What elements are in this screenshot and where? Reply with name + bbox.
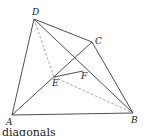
segment-ef [54,71,83,77]
segment-de [34,19,54,77]
vertex-label-b: B [130,115,138,125]
segment-ad [12,19,34,115]
segment-db [34,19,133,113]
quadrilateral-diagram: ABCDEF [0,0,147,136]
segment-eb [54,77,133,113]
vertex-label-e: E [51,78,59,88]
solid-segments [12,19,133,115]
vertex-label-f: F [80,71,88,81]
segment-ab [12,113,133,115]
segment-cb [92,42,133,113]
vertex-label-c: C [95,36,102,46]
vertex-labels: ABCDEF [5,7,138,127]
segment-dc [34,19,92,42]
vertex-label-d: D [31,7,39,17]
caption-text: diagonals [2,126,56,136]
